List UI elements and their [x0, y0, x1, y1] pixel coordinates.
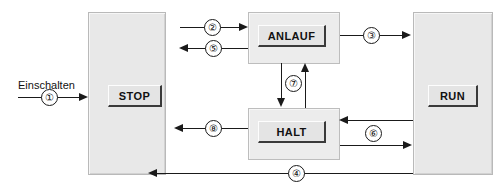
transition-6-right-line	[340, 145, 404, 146]
transition-marker-6: ⑥	[365, 125, 382, 142]
state-button-stop[interactable]: STOP	[108, 85, 162, 107]
transition-marker-4: ④	[288, 165, 305, 182]
state-button-run[interactable]: RUN	[428, 85, 478, 107]
transition-marker-1: ①	[41, 89, 58, 106]
transition-4-line	[157, 173, 413, 174]
transition-7-down-arrowhead	[277, 98, 285, 107]
transition-4-arrowhead	[148, 169, 157, 177]
transition-7-up-line	[305, 72, 306, 108]
state-button-halt[interactable]: HALT	[258, 121, 326, 143]
transition-5-arrowhead	[179, 44, 188, 52]
transition-6-left-line	[348, 120, 413, 121]
transition-1-arrowhead	[79, 93, 88, 101]
transition-7-up-arrowhead	[301, 63, 309, 72]
transition-3-arrowhead	[402, 31, 411, 39]
state-button-anlauf[interactable]: ANLAUF	[258, 25, 326, 47]
transition-6-left-arrowhead	[339, 116, 348, 124]
transition-6-right-arrowhead	[403, 141, 412, 149]
transition-2-arrowhead	[239, 23, 248, 31]
transition-marker-7: ⑦	[285, 75, 302, 92]
transition-marker-2: ②	[204, 19, 221, 36]
transition-7-down-line	[281, 63, 282, 99]
transition-marker-8: ⑧	[205, 120, 222, 137]
transition-marker-5: ⑤	[205, 40, 222, 57]
transition-marker-3: ③	[363, 27, 380, 44]
transition-8-arrowhead	[174, 124, 183, 132]
state-transition-diagram: STOP RUN ANLAUF HALT Einschalten ① ② ⑤ ③…	[0, 0, 504, 196]
